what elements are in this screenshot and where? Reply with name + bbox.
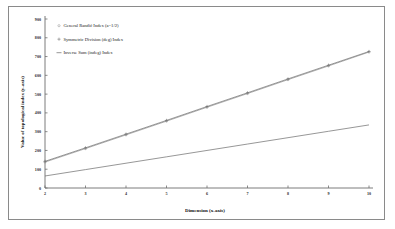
chart-legend: General Randić Index (a=1/2)Symmetric Di…: [57, 23, 124, 55]
legend-item: Symmetric Division (deg) Index: [57, 37, 123, 42]
data-point-marker: [57, 38, 60, 41]
x-tick-label: 10: [367, 191, 371, 196]
x-axis-tick-group: 2345678910: [44, 186, 371, 197]
y-tick-label: 100: [35, 167, 41, 172]
y-tick-label: 500: [35, 92, 41, 97]
y-tick-label: 200: [35, 148, 41, 153]
line-chart-svg: 0100200300400500600700800900 2345678910 …: [0, 0, 395, 229]
legend-label: Inverse Sum (indeg) Index: [64, 50, 114, 55]
y-axis-tick-group: 0100200300400500600700800900: [35, 17, 48, 191]
series-line: [45, 125, 369, 176]
data-point-marker: [58, 25, 60, 27]
y-tick-label: 900: [35, 17, 41, 22]
data-series-group: [43, 50, 370, 176]
y-tick-label: 300: [35, 129, 41, 134]
legend-label: Symmetric Division (deg) Index: [64, 37, 124, 42]
x-tick-label: 4: [125, 191, 127, 196]
y-tick-label: 800: [35, 35, 41, 40]
legend-item: Inverse Sum (indeg) Index: [57, 50, 114, 55]
legend-label: General Randić Index (a=1/2): [64, 23, 119, 28]
x-axis-title: Dimension (x-axis): [185, 208, 225, 213]
x-tick-label: 9: [327, 191, 329, 196]
legend-item: General Randić Index (a=1/2): [58, 23, 119, 28]
x-tick-label: 5: [165, 191, 167, 196]
x-tick-label: 8: [287, 191, 289, 196]
y-tick-label: 600: [35, 73, 41, 78]
x-tick-label: 7: [246, 191, 248, 196]
y-tick-label: 0: [39, 186, 41, 191]
x-tick-label: 6: [206, 191, 208, 196]
y-tick-label: 700: [35, 54, 41, 59]
x-tick-label: 2: [44, 191, 46, 196]
chart-canvas: 0100200300400500600700800900 2345678910 …: [0, 0, 395, 229]
x-tick-label: 3: [84, 191, 86, 196]
y-tick-label: 400: [35, 110, 41, 115]
series-line: [45, 125, 369, 176]
y-axis-title: Value of topological index (y-axis): [20, 76, 25, 148]
